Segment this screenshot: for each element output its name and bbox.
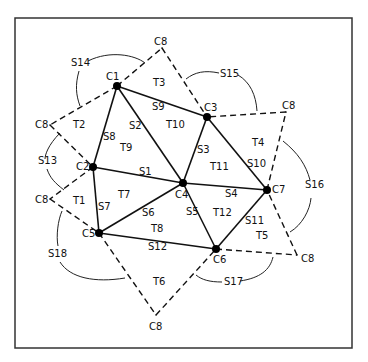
- boundary-edge-label: S15: [220, 68, 239, 79]
- node-label: C3: [204, 102, 217, 113]
- edge-s6: [99, 183, 183, 233]
- triangle-label: T9: [119, 142, 132, 153]
- c8-label: C8: [149, 321, 162, 332]
- node-label: C6: [213, 254, 226, 265]
- boundary-edge-label: S16: [305, 179, 324, 190]
- edge-label: S1: [139, 166, 152, 177]
- c8-vertex: [296, 254, 298, 256]
- c8-vertex: [155, 314, 157, 316]
- edge-label: S10: [247, 158, 266, 169]
- triangulation-diagram: C1C2C3C4C5C6C7C8C8C8C8C8C8S1S2S3S4S5S6S7…: [0, 0, 368, 362]
- triangle-label: T8: [150, 223, 163, 234]
- dashed-edge: [216, 249, 297, 255]
- triangle-label: T12: [212, 207, 232, 218]
- c8-vertex: [49, 124, 51, 126]
- node-c6: [212, 245, 220, 253]
- boundary-edge-label: S18: [48, 248, 67, 259]
- triangle-label: T1: [72, 195, 85, 206]
- edge-s7: [93, 167, 99, 233]
- S15-arc-2: [238, 75, 257, 111]
- triangle-label: T3: [152, 77, 165, 88]
- edge-label: S9: [152, 101, 165, 112]
- S17-arc: [196, 275, 222, 282]
- c8-vertex: [49, 198, 51, 200]
- edge-label: S7: [98, 201, 111, 212]
- node-label: C1: [106, 71, 119, 82]
- S14-arc: [88, 55, 145, 63]
- node-c4: [179, 179, 187, 187]
- dashed-edge: [267, 112, 286, 190]
- node-c3: [203, 113, 211, 121]
- edge-s1: [93, 167, 183, 183]
- c8-label: C8: [282, 100, 295, 111]
- edge-label: S8: [103, 131, 116, 142]
- S17-arc-2: [240, 257, 273, 281]
- c8-vertex: [161, 47, 163, 49]
- node-c2: [89, 163, 97, 171]
- edge-label: S11: [245, 215, 264, 226]
- internal-solid-edges: [93, 86, 267, 249]
- c8-vertex: [285, 111, 287, 113]
- c8-label: C8: [35, 119, 48, 130]
- node-c1: [113, 82, 121, 90]
- node-c7: [263, 186, 271, 194]
- edge-label: S6: [142, 207, 155, 218]
- S15-arc: [186, 72, 219, 79]
- node-label: C2: [76, 161, 89, 172]
- dashed-edge: [267, 190, 297, 255]
- node-c5: [95, 229, 103, 237]
- triangle-label: T11: [209, 161, 229, 172]
- triangle-label: T6: [152, 276, 165, 287]
- S13-arc-2: [47, 169, 64, 190]
- dashed-edge: [162, 48, 207, 117]
- S16-arc-2: [290, 198, 311, 232]
- edge-label: S4: [225, 188, 238, 199]
- node-label: C4: [175, 189, 188, 200]
- edge-label: S3: [197, 144, 210, 155]
- c8-label: C8: [154, 36, 167, 47]
- edge-label: S5: [186, 206, 199, 217]
- S14-arc-2: [76, 71, 80, 106]
- node-label: C5: [82, 228, 95, 239]
- dashed-edge: [207, 112, 286, 117]
- S18-arc-2: [60, 262, 125, 280]
- edge-s10: [207, 117, 267, 190]
- boundary-edge-label: S17: [224, 276, 243, 287]
- triangle-label: T10: [165, 119, 185, 130]
- edge-label: S12: [148, 241, 167, 252]
- S16-arc: [283, 141, 310, 180]
- triangle-label: T2: [72, 119, 85, 130]
- boundary-edge-label: S14: [71, 57, 90, 68]
- boundary-edge-label: S13: [38, 155, 57, 166]
- triangle-label: T4: [251, 137, 264, 148]
- edge-label: S2: [129, 120, 142, 131]
- triangle-label: T5: [255, 230, 268, 241]
- triangle-label: T7: [117, 189, 130, 200]
- c8-label: C8: [301, 253, 314, 264]
- node-label: C7: [272, 184, 285, 195]
- S18-arc: [57, 211, 62, 246]
- c8-label: C8: [35, 194, 48, 205]
